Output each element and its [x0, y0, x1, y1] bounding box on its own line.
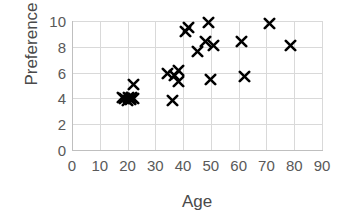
y-tick-label: 8 [40, 38, 66, 55]
data-point-marker [202, 16, 215, 29]
x-tick-label: 90 [302, 157, 342, 174]
plot-area [72, 21, 322, 150]
gridline-vertical [239, 21, 240, 150]
data-point-marker [124, 93, 137, 106]
gridline-horizontal [72, 98, 322, 99]
x-axis-line [72, 150, 323, 151]
gridline-vertical [100, 21, 101, 150]
gridline-vertical [155, 21, 156, 150]
y-tick-label: 6 [40, 64, 66, 81]
gridline-vertical [183, 21, 184, 150]
y-tick-label: 4 [40, 90, 66, 107]
gridline-horizontal [72, 21, 322, 22]
gridline-horizontal [72, 73, 322, 74]
y-axis-line [72, 21, 73, 151]
gridline-horizontal [72, 124, 322, 125]
data-point-marker [116, 91, 129, 104]
y-tick-label: 0 [40, 142, 66, 159]
data-point-marker [122, 91, 135, 104]
gridline-vertical [211, 21, 212, 150]
data-point-marker [207, 39, 220, 52]
y-tick-label: 2 [40, 116, 66, 133]
y-tick-label: 10 [40, 13, 66, 30]
x-axis-tick-labels: 0102030405060708090 [72, 157, 323, 179]
data-point-marker [127, 78, 140, 91]
x-axis-title: Age [72, 192, 322, 212]
gridline-vertical [322, 21, 323, 150]
gridline-horizontal [72, 47, 322, 48]
data-point-marker [168, 69, 181, 82]
scatter-chart: Preference 0246810 0102030405060708090 A… [0, 0, 352, 222]
data-point-marker [179, 25, 192, 38]
gridline-vertical [266, 21, 267, 150]
data-point-marker [161, 67, 174, 80]
y-axis-tick-labels: 0246810 [36, 0, 66, 222]
data-point-marker [263, 17, 276, 30]
gridline-vertical [128, 21, 129, 150]
data-point-marker [166, 94, 179, 107]
gridline-vertical [294, 21, 295, 150]
